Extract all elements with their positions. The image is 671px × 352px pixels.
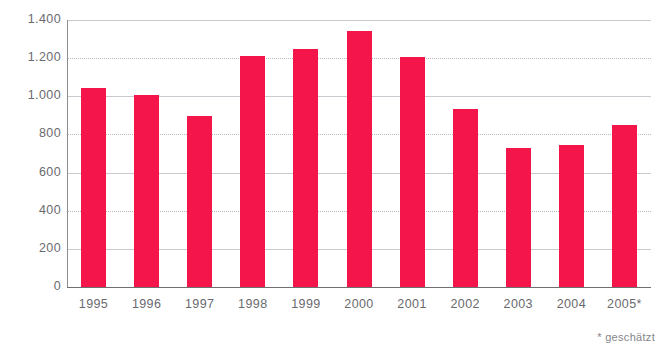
x-axis-tick-label: 2005* — [594, 297, 654, 311]
bar — [453, 109, 478, 287]
y-axis-tick-labels: 02004006008001.0001.2001.400 — [0, 0, 61, 352]
x-axis-tick-label: 1997 — [170, 297, 230, 311]
y-axis-tick-label: 1.200 — [5, 50, 61, 64]
y-axis-tick-label: 600 — [5, 165, 61, 179]
y-axis-tick-label: 800 — [5, 126, 61, 140]
x-axis-line — [67, 287, 651, 288]
x-axis-tick-label: 2003 — [488, 297, 548, 311]
bar — [400, 57, 425, 287]
bar — [134, 95, 159, 287]
bar — [347, 31, 372, 287]
y-axis-tick-label: 200 — [5, 241, 61, 255]
x-axis-tick-label: 2004 — [541, 297, 601, 311]
x-axis-tick-label: 2001 — [382, 297, 442, 311]
bar-chart: 02004006008001.0001.2001.400 19951996199… — [0, 0, 671, 352]
bar — [506, 148, 531, 287]
bars-layer — [67, 20, 651, 287]
x-axis-tick-label: 1998 — [223, 297, 283, 311]
bar — [559, 145, 584, 287]
x-axis-tick-label: 1996 — [117, 297, 177, 311]
bar — [187, 116, 212, 287]
x-axis-tick-label: 2002 — [435, 297, 495, 311]
y-axis-tick-label: 1.000 — [5, 88, 61, 102]
x-axis-tick-label: 1999 — [276, 297, 336, 311]
y-axis-tick-label: 0 — [5, 279, 61, 293]
x-axis-tick-label: 2000 — [329, 297, 389, 311]
x-axis-tick-label: 1995 — [64, 297, 124, 311]
bar — [81, 88, 106, 287]
bar — [293, 49, 318, 287]
y-axis-tick-label: 400 — [5, 203, 61, 217]
y-axis-tick-label: 1.400 — [5, 12, 61, 26]
bar — [612, 125, 637, 287]
bar — [240, 56, 265, 287]
chart-footnote: * geschätzt — [597, 331, 655, 343]
